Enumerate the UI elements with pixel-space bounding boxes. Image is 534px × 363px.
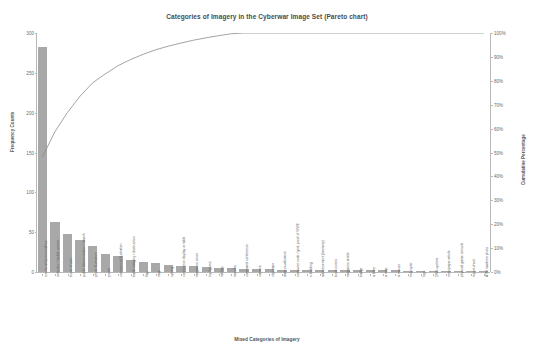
x-axis-category-label: computer code / grid, proof of WWII bbox=[296, 224, 300, 278]
x-axis-category-label: websites / mobile screen bbox=[56, 240, 60, 277]
x-axis-category-label: missiles bbox=[233, 265, 237, 277]
y-axis-right-title: Cumulative Percentage bbox=[521, 134, 526, 185]
y-axis-right-tick bbox=[491, 57, 493, 58]
x-axis-category-label: cityscape bbox=[271, 263, 275, 277]
x-axis-category-label: military bbox=[220, 266, 224, 277]
x-axis-category-label: battle imagery / destruction bbox=[132, 236, 136, 277]
x-axis-category-label: toy figures bbox=[208, 261, 212, 277]
x-axis-category-label: a letter bbox=[372, 267, 376, 277]
y-axis-right-tick-label: 100% bbox=[491, 31, 506, 36]
x-axis-category-label: e-building bbox=[309, 262, 313, 277]
y-axis-right-tick bbox=[491, 272, 493, 273]
y-axis-right-tick bbox=[491, 248, 493, 249]
x-axis-category-label: flag bbox=[145, 272, 149, 277]
x-axis-category-label: events and personalities bbox=[44, 240, 48, 277]
pareto-chart: Categories of Imagery in the Cyberwar Im… bbox=[0, 0, 534, 363]
x-axis-category-label: a mouse bbox=[397, 264, 401, 277]
x-axis-category-label: data visualization bbox=[283, 251, 287, 277]
x-axis-category-label: commercial illustration bbox=[119, 244, 123, 277]
x-axis-category-label: magazine article bbox=[346, 252, 350, 277]
x-axis-category-label: power bbox=[107, 268, 111, 277]
y-axis-right-tick bbox=[491, 81, 493, 82]
chart-title: Categories of Imagery in the Cyberwar Im… bbox=[0, 13, 534, 20]
y-axis-right-tick bbox=[491, 129, 493, 130]
x-axis-tick bbox=[80, 274, 81, 276]
x-axis-category-label: boots of user bbox=[69, 257, 73, 277]
x-axis-category-label: photo illustration bbox=[94, 252, 98, 277]
bar bbox=[139, 262, 148, 272]
bar-series bbox=[36, 33, 490, 272]
x-axis-category-label: a map bbox=[384, 268, 388, 277]
x-axis-category-label: public demonstration / march bbox=[82, 233, 86, 277]
x-axis-category-label: ATM machine photo bbox=[485, 247, 489, 277]
x-axis-category-label: helicopter bbox=[409, 262, 413, 277]
y-axis-right-tick bbox=[491, 224, 493, 225]
x-axis-category-label: map bbox=[157, 270, 161, 277]
x-axis-category-label: newspaper article bbox=[447, 250, 451, 277]
x-axis-category-label: cyborg bbox=[170, 267, 174, 277]
x-axis-category-label: badge bbox=[359, 268, 363, 277]
x-axis-category-label: book covers bbox=[334, 259, 338, 277]
x-axis-category-label: camera bbox=[258, 266, 262, 277]
y-axis-right-tick bbox=[491, 105, 493, 106]
x-axis-category-label: advertisement (memory) bbox=[321, 240, 325, 277]
y-axis-left-title: Frequency Counts bbox=[10, 112, 15, 152]
y-axis-right-tick bbox=[491, 33, 493, 34]
x-axis-category-labels: events and personalitieswebsites / mobil… bbox=[36, 274, 490, 336]
y-axis-right-tick bbox=[491, 176, 493, 177]
x-axis-tick bbox=[307, 274, 308, 276]
y-axis-right-tick bbox=[491, 153, 493, 154]
x-axis-category-label: logo bbox=[422, 271, 426, 277]
x-axis-category-label: DNS system bbox=[435, 258, 439, 277]
x-axis-category-label: physical game console bbox=[460, 243, 464, 277]
y-axis-right: 0%10%20%30%40%50%60%70%80%90%100% bbox=[490, 33, 491, 272]
x-axis-category-label: command conference bbox=[245, 244, 249, 277]
x-axis-category-label: conference display or table bbox=[182, 237, 186, 277]
x-axis-category-label: magazine cover bbox=[195, 253, 199, 277]
y-axis-right-tick bbox=[491, 200, 493, 201]
x-axis-category-label: report sheet bbox=[472, 259, 476, 277]
x-axis-title: Mixed Categories of Imagery bbox=[0, 337, 534, 342]
bar bbox=[38, 47, 47, 272]
